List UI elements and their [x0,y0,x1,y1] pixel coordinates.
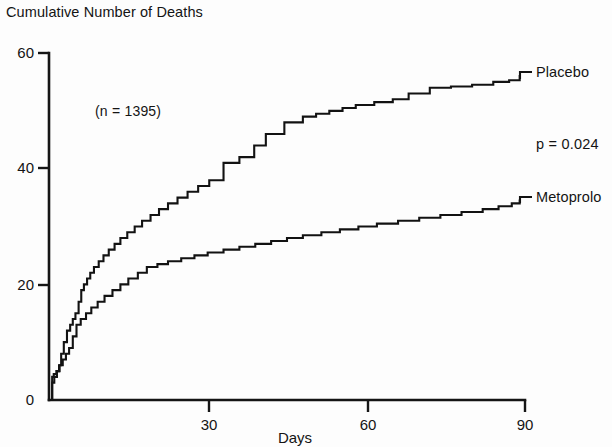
x-axis-title: Days [250,430,340,445]
series-line-metoprolol [49,200,520,400]
y-axis-tick-label-40: 40 [0,160,34,175]
y-axis-tick-label-20: 20 [0,277,34,292]
sample-size-annotation: (n = 1395) [95,104,161,118]
y-axis-tick-label-60: 60 [0,45,34,60]
series-label-placebo: Placebo [536,65,589,80]
x-axis-tick-label-30: 30 [189,417,229,432]
series-line-placebo [49,76,520,400]
series-label-metoprolol: Metoprolo [536,190,601,205]
chart-figure: Cumulative Number of Deaths 60 40 20 0 3… [0,0,612,447]
x-axis-tick-label-60: 60 [348,417,388,432]
y-axis-tick-label-0: 0 [0,392,34,407]
x-axis-tick-label-90: 90 [505,417,545,432]
chart-title: Cumulative Number of Deaths [6,5,203,20]
leader-line-placebo [520,72,532,79]
plot-canvas [0,0,612,447]
leader-line-metoprolol [520,197,532,203]
p-value-annotation: p = 0.024 [536,137,599,152]
